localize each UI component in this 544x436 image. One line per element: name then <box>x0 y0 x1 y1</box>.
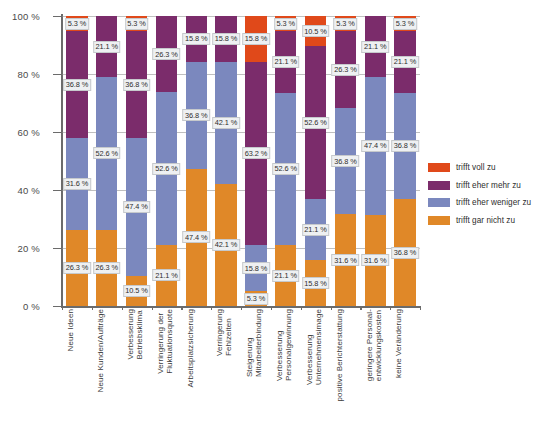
bar-segment-value-label: 21.1 % <box>93 41 121 53</box>
bar[interactable]: 15.8 %36.8 %47.4 % <box>186 16 207 306</box>
bar-segment-value-label: 21.1 % <box>272 56 300 68</box>
bar[interactable]: 5.3 %36.8 %47.4 %10.5 % <box>126 16 147 306</box>
legend-color-swatch <box>428 216 450 225</box>
x-axis-labels: Neue IdeenNeue Kunden/AufträgeVerbesseru… <box>62 309 420 434</box>
x-axis-category-label: Verringerung der Fluktuationsquote <box>156 309 177 374</box>
x-axis-category-label: Steigerung Mitarbeiterbindung <box>245 309 266 377</box>
x-axis-category-label: positive Berichterstattung <box>335 309 356 401</box>
legend-item-label: trifft voll zu <box>456 163 496 172</box>
bar-segment-value-label: 31.6 % <box>63 178 91 190</box>
bar-segment-value-label: 36.8 % <box>391 247 419 259</box>
plot-area: 0 %20 %40 %60 %80 %100 % 5.3 %36.8 %31.6… <box>62 16 420 306</box>
x-axis-tick <box>420 306 421 310</box>
x-axis-category-label: Verbesserung Betriebsklima <box>126 309 147 360</box>
bar[interactable]: 21.1 %52.6 %26.3 % <box>96 16 117 306</box>
bar-group: 5.3 %36.8 %31.6 %26.3 %21.1 %52.6 %26.3 … <box>62 16 420 306</box>
bar[interactable]: 5.3 %21.1 %52.6 %21.1 % <box>275 16 296 306</box>
x-axis-category-label: Verringerung Fehlzeiten <box>215 309 236 356</box>
bar-segment-value-label: 21.1 % <box>361 41 389 53</box>
bar-segment-value-label: 26.3 % <box>93 262 121 274</box>
bar-segment-value-label: 15.8 % <box>242 262 270 274</box>
x-axis-category-label: Arbeitsplatzsicherung <box>186 309 207 388</box>
x-axis-category-label: Neue Kunden/Aufträge <box>96 309 117 392</box>
bar-segment-value-label: 15.8 % <box>212 33 240 45</box>
y-axis-tick: 20 % <box>53 248 62 249</box>
legend-item[interactable]: trifft gar nicht zu <box>428 213 540 228</box>
bar-segment-value-label: 5.3 % <box>65 18 89 30</box>
bar-segment-value-label: 36.8 % <box>123 79 151 91</box>
bar-segment-value-label: 36.8 % <box>63 79 91 91</box>
bar-segment-value-label: 15.8 % <box>182 33 210 45</box>
y-axis-tick-label: 60 % <box>18 127 40 138</box>
bar-segment-value-label: 42.1 % <box>212 117 240 129</box>
x-axis-category-label: Verbesserung Unternehmensimage <box>305 309 326 385</box>
bar-segment-value-label: 21.1 % <box>272 270 300 282</box>
bar-segment-value-label: 63.2 % <box>242 147 270 159</box>
bar-segment-value-label: 21.1 % <box>391 56 419 68</box>
x-axis-category-label: keine Veränderung <box>394 309 415 378</box>
y-axis-tick: 0 % <box>53 306 62 307</box>
x-axis-category-label: geringere Personal- entwicklungskosten <box>365 309 386 381</box>
legend-color-swatch <box>428 198 450 207</box>
bar-segment-value-label: 52.6 % <box>272 163 300 175</box>
y-axis-tick: 60 % <box>53 132 62 133</box>
x-axis-category-label: Verbesserung Personalgewinnung <box>275 309 296 381</box>
bar[interactable]: 15.8 %42.1 %42.1 % <box>215 16 236 306</box>
bar[interactable]: 5.3 %21.1 %36.8 %36.8 % <box>394 16 415 306</box>
bar[interactable]: 21.1 %47.4 %31.6 % <box>365 16 386 306</box>
bar-segment-value-label: 52.6 % <box>153 163 181 175</box>
bar[interactable]: 5.3 %26.3 %36.8 %31.6 % <box>335 16 356 306</box>
bar-segment-value-label: 15.8 % <box>302 277 330 289</box>
bar-segment-value-label: 36.8 % <box>332 155 360 167</box>
bar-segment-value-label: 26.3 % <box>332 64 360 76</box>
bar-segment-value-label: 26.3 % <box>153 48 181 60</box>
legend: trifft voll zutrifft eher mehr zutrifft … <box>428 160 540 230</box>
bar[interactable]: 26.3 %52.6 %21.1 % <box>156 16 177 306</box>
bar-segment-value-label: 10.5 % <box>302 25 330 37</box>
bar-segment-value-label: 36.8 % <box>391 140 419 152</box>
legend-item[interactable]: trifft eher weniger zu <box>428 195 540 210</box>
bar[interactable]: 15.8 %63.2 %15.8 %5.3 % <box>245 16 266 306</box>
legend-item-label: trifft eher weniger zu <box>456 198 531 207</box>
bar-segment-value-label: 10.5 % <box>123 285 151 297</box>
stacked-bar-chart: 0 %20 %40 %60 %80 %100 % 5.3 %36.8 %31.6… <box>0 0 544 436</box>
y-axis-tick-label: 100 % <box>12 11 40 22</box>
y-axis-tick: 80 % <box>53 74 62 75</box>
bar-segment-value-label: 21.1 % <box>153 269 181 281</box>
bar-segment-value-label: 5.3 % <box>334 18 358 30</box>
bar[interactable]: 5.3 %36.8 %31.6 %26.3 % <box>66 16 87 306</box>
bar-segment-value-label: 47.4 % <box>182 231 210 243</box>
legend-item[interactable]: trifft eher mehr zu <box>428 178 540 193</box>
bar-segment-value-label: 31.6 % <box>361 254 389 266</box>
bar-segment-value-label: 5.3 % <box>125 18 149 30</box>
legend-item-label: trifft eher mehr zu <box>456 181 521 190</box>
bar-segment-value-label: 5.3 % <box>393 18 417 30</box>
y-axis-tick-label: 40 % <box>18 185 40 196</box>
y-axis-tick-label: 0 % <box>23 301 40 312</box>
bar-segment-value-label: 47.4 % <box>361 140 389 152</box>
bar-segment-value-label: 36.8 % <box>182 109 210 121</box>
bar-segment-value-label: 31.6 % <box>332 254 360 266</box>
bar[interactable]: 10.5 %52.6 %21.1 %15.8 % <box>305 16 326 306</box>
bar-segment-value-label: 21.1 % <box>302 224 330 236</box>
legend-item[interactable]: trifft voll zu <box>428 160 540 175</box>
bar-segment-value-label: 15.8 % <box>242 33 270 45</box>
y-axis-tick: 40 % <box>53 190 62 191</box>
bar-segment-value-label: 42.1 % <box>212 239 240 251</box>
x-axis-category-label: Neue Ideen <box>66 309 87 351</box>
y-axis-tick-label: 20 % <box>18 243 40 254</box>
bar-segment-value-label: 52.6 % <box>302 117 330 129</box>
y-axis-tick-label: 80 % <box>18 69 40 80</box>
bar-segment-value-label: 5.3 % <box>244 293 268 305</box>
legend-color-swatch <box>428 163 450 172</box>
legend-color-swatch <box>428 181 450 190</box>
legend-item-label: trifft gar nicht zu <box>456 216 515 225</box>
bar-segment-value-label: 47.4 % <box>123 201 151 213</box>
bar-segment-value-label: 26.3 % <box>63 262 91 274</box>
bar-segment-value-label: 5.3 % <box>274 18 298 30</box>
y-axis-tick: 100 % <box>53 16 62 17</box>
bar-segment-value-label: 52.6 % <box>93 147 121 159</box>
